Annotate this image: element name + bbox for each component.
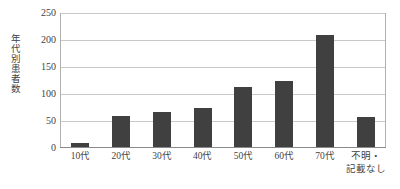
y-tick-label: 50 [22, 116, 56, 126]
y-tick-label: 150 [22, 62, 56, 72]
bar [234, 87, 252, 147]
bar [194, 108, 212, 147]
bar-series [60, 13, 386, 148]
x-tick-label: 20代 [101, 150, 142, 163]
bar [316, 35, 334, 147]
bar [275, 81, 293, 147]
y-tick-label: 100 [22, 89, 56, 99]
x-tick-label: 不明・ 記載なし [345, 150, 386, 175]
y-axis-title: 年代別患者数 [4, 34, 20, 94]
x-tick-label: 60代 [264, 150, 305, 163]
x-axis-tick-labels: 10代20代30代40代50代60代70代不明・ 記載なし [60, 150, 386, 189]
bar [112, 116, 130, 147]
y-axis-tick-labels: 050100150200250 [22, 0, 56, 189]
x-tick-label: 40代 [182, 150, 223, 163]
bar [153, 112, 171, 147]
x-tick-label: 70代 [305, 150, 346, 163]
bar [71, 143, 89, 147]
x-tick-label: 30代 [142, 150, 183, 163]
x-tick-label: 10代 [60, 150, 101, 163]
bar-chart: 年代別患者数 050100150200250 10代20代30代40代50代60… [0, 0, 400, 189]
x-tick-label: 50代 [223, 150, 264, 163]
y-tick-label: 200 [22, 35, 56, 45]
y-tick-label: 0 [22, 143, 56, 153]
plot-area [60, 13, 386, 148]
bar [357, 117, 375, 147]
y-tick-label: 250 [22, 8, 56, 18]
